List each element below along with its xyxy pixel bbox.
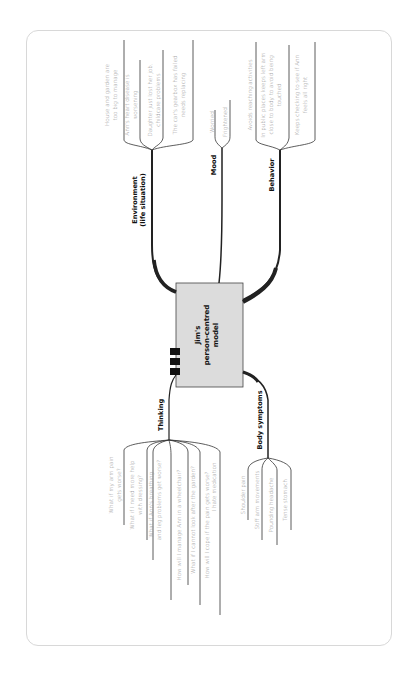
svg-text:Ann's heart disease is: Ann's heart disease is: [124, 74, 130, 135]
svg-text:In public places keeps left ar: In public places keeps left arm: [260, 52, 267, 137]
svg-text:The car's gearbox has failed: The car's gearbox has failed: [172, 56, 179, 135]
mood-connector: [219, 148, 222, 283]
body-symptoms-items: Shoulder pain Stiff arm movements Poundi…: [240, 470, 288, 532]
svg-text:worsening: worsening: [132, 91, 139, 120]
tab-marker-icon: [170, 358, 180, 365]
svg-text:What if I need more help: What if I need more help: [129, 460, 136, 530]
svg-text:needs replacing: needs replacing: [180, 73, 187, 117]
svg-text:Body symptoms: Body symptoms: [256, 390, 264, 449]
svg-text:touched: touched: [276, 84, 282, 107]
svg-text:(life situation): (life situation): [139, 173, 147, 226]
svg-text:gets worse?: gets worse?: [116, 468, 123, 501]
mind-map: Jim's person-centred model Environment (…: [0, 0, 419, 684]
svg-text:How will I cope if the pain ge: How will I cope if the pain gets worse?: [204, 471, 211, 578]
thinking-connector: [169, 375, 176, 440]
svg-text:Environment: Environment: [131, 176, 139, 223]
svg-text:close to body to avoid being: close to body to avoid being: [268, 55, 275, 134]
svg-text:person-centred: person-centred: [203, 305, 211, 366]
svg-text:I hate medication: I hate medication: [211, 462, 217, 511]
svg-text:Mood: Mood: [210, 155, 218, 176]
svg-text:childcare problems: childcare problems: [155, 73, 162, 126]
mood-label: Mood: [210, 155, 218, 176]
svg-text:Tense stomach: Tense stomach: [282, 479, 288, 521]
tab-marker-icon: [170, 368, 180, 375]
svg-text:Frightened: Frightened: [222, 107, 229, 137]
svg-text:Keeps checking to see if Ann: Keeps checking to see if Ann: [294, 55, 301, 135]
svg-text:How will I manage Ann in a whe: How will I manage Ann in a wheelchair?: [176, 469, 183, 580]
svg-text:Pounding headache: Pounding headache: [268, 477, 275, 532]
body-symptoms-label: Body symptoms: [256, 390, 264, 449]
environment-label: Environment (life situation): [131, 173, 147, 226]
svg-text:What if my arm pain: What if my arm pain: [108, 456, 115, 513]
svg-text:and leg problems get worse?: and leg problems get worse?: [156, 460, 163, 541]
environment-items: House and garden aretoo big to manage An…: [104, 56, 187, 137]
behavior-label: Behavior: [268, 158, 276, 192]
svg-text:Daughter just lost her job,: Daughter just lost her job,: [147, 63, 154, 136]
svg-text:What if Ann's breathing: What if Ann's breathing: [148, 472, 155, 538]
svg-text:Jim's: Jim's: [194, 326, 202, 346]
svg-text:Thinking: Thinking: [157, 399, 165, 431]
mood-items: Worried Frightened: [209, 107, 229, 137]
svg-text:House and garden are: House and garden are: [104, 63, 111, 126]
svg-text:Shoulder pain: Shoulder pain: [240, 476, 247, 515]
svg-text:feels all right: feels all right: [302, 77, 309, 113]
svg-text:Worried: Worried: [209, 111, 215, 133]
svg-text:What if I cannot look after th: What if I cannot look after the garden?: [190, 466, 197, 574]
thinking-label: Thinking: [157, 399, 165, 431]
svg-text:Avoids reaching activities: Avoids reaching activities: [247, 59, 254, 130]
tab-marker-icon: [170, 348, 180, 355]
svg-text:Stiff arm movements: Stiff arm movements: [254, 470, 260, 529]
svg-text:too big to manage: too big to manage: [112, 69, 119, 121]
svg-text:model: model: [212, 323, 220, 347]
svg-text:with dressing?: with dressing?: [137, 475, 144, 515]
svg-text:Behavior: Behavior: [268, 158, 276, 192]
